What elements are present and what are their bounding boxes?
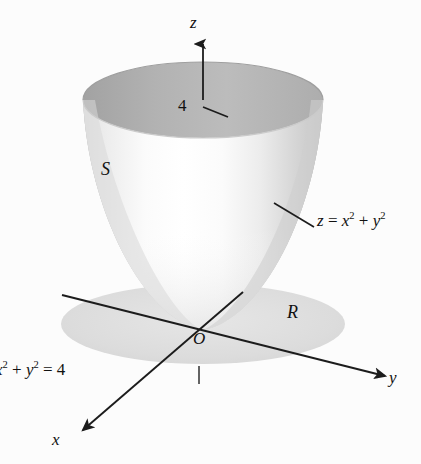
disk-boundary-equation-label: x2 + y2 = 4	[0, 361, 65, 378]
surface-equation-label: z = x2 + y2	[317, 212, 385, 229]
boundary-equation-plus: +	[8, 360, 26, 379]
origin-label: O	[193, 330, 205, 347]
z-axis-tick-label-4: 4	[178, 97, 187, 114]
boundary-equation-equals-four: = 4	[39, 360, 66, 379]
math-figure-paraboloid: z 4 S z = x2 + y2 R O y x x2 + y2 = 4	[0, 0, 421, 464]
axis-label-z: z	[190, 14, 197, 31]
surface-equation-y-exponent: 2	[380, 210, 385, 221]
surface-label-S: S	[101, 160, 110, 178]
surface-equation-z: z	[317, 211, 324, 230]
axis-label-y: y	[389, 369, 397, 386]
figure-canvas	[0, 0, 421, 464]
axis-label-x: x	[52, 431, 60, 448]
region-label-R: R	[287, 303, 298, 321]
surface-equation-equals: =	[324, 211, 342, 230]
surface-equation-plus: +	[355, 211, 373, 230]
